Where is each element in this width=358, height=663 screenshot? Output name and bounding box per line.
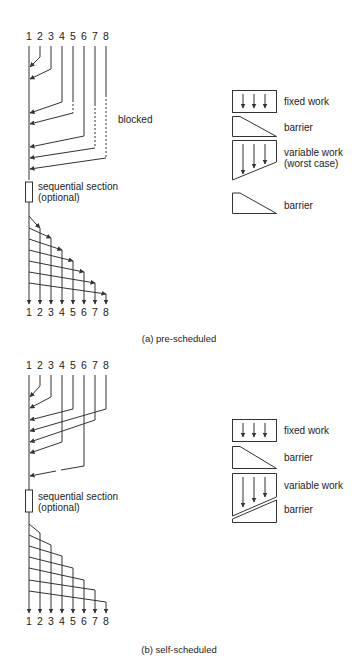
- blocked-label: blocked: [118, 114, 152, 125]
- legend-variable-work: variable work: [284, 147, 344, 158]
- proc-label: 2: [37, 615, 43, 627]
- barrier-shape: [233, 117, 277, 137]
- processor-labels-bottom: 1 2 3 4 5 6 7 8: [26, 306, 109, 318]
- proc-label: 7: [92, 615, 98, 627]
- fan-out-lines: [29, 216, 106, 304]
- proc-label: 4: [59, 615, 65, 627]
- barrier-shape: [233, 447, 277, 469]
- panel-pre-scheduled: 1 2 3 4 5 6 7 8 blocked: [26, 30, 344, 344]
- proc-label: 3: [48, 359, 54, 371]
- fan-out-lines: [29, 524, 106, 613]
- barrier-shape: [233, 500, 277, 523]
- proc-label: 3: [48, 30, 54, 42]
- proc-label: 2: [37, 306, 43, 318]
- legend-barrier: barrier: [284, 504, 314, 515]
- legend-self-scheduled: fixed work barrier variable work barrier: [233, 420, 344, 523]
- panel-self-scheduled: 1 2 3 4 5 6 7 8 sequential section (opti…: [26, 359, 344, 655]
- proc-label: 1: [26, 359, 32, 371]
- proc-label: 7: [92, 359, 98, 371]
- proc-label: 8: [103, 615, 109, 627]
- proc-label: 8: [103, 359, 109, 371]
- legend-worst-case: (worst case): [284, 158, 338, 169]
- proc-label: 1: [26, 30, 32, 42]
- scheduling-diagram: 1 2 3 4 5 6 7 8 blocked: [0, 0, 358, 663]
- proc-label: 3: [48, 306, 54, 318]
- legend-barrier: barrier: [284, 452, 314, 463]
- sequential-label: sequential section: [38, 491, 118, 502]
- proc-label: 6: [81, 359, 87, 371]
- optional-label: (optional): [38, 502, 80, 513]
- proc-label: 7: [92, 306, 98, 318]
- processor-labels-top: 1 2 3 4 5 6 7 8: [26, 30, 109, 42]
- proc-label: 5: [70, 615, 76, 627]
- legend-pre-scheduled: fixed work barrier variable work (worst …: [233, 91, 344, 214]
- legend-barrier: barrier: [284, 200, 314, 211]
- proc-label: 6: [81, 306, 87, 318]
- sequential-label: sequential section: [38, 181, 118, 192]
- proc-label: 6: [81, 615, 87, 627]
- join-lines: [29, 46, 106, 180]
- caption-pre-scheduled: (a) pre-scheduled: [142, 333, 216, 344]
- proc-label: 4: [59, 359, 65, 371]
- processor-labels-bottom: 1 2 3 4 5 6 7 8: [26, 615, 109, 627]
- sequential-section-box: [26, 490, 33, 512]
- legend-barrier: barrier: [284, 122, 314, 133]
- proc-label: 4: [59, 306, 65, 318]
- proc-label: 3: [48, 615, 54, 627]
- proc-label: 5: [70, 359, 76, 371]
- proc-label: 5: [70, 30, 76, 42]
- proc-label: 8: [103, 306, 109, 318]
- proc-label: 6: [81, 30, 87, 42]
- proc-label: 5: [70, 306, 76, 318]
- proc-label: 2: [37, 30, 43, 42]
- barrier-shape: [233, 193, 277, 214]
- proc-label: 1: [26, 306, 32, 318]
- proc-label: 2: [37, 359, 43, 371]
- join-lines: [29, 375, 106, 490]
- processor-labels-top: 1 2 3 4 5 6 7 8: [26, 359, 109, 371]
- legend-fixed-work: fixed work: [284, 96, 330, 107]
- sequential-section-box: [26, 182, 33, 202]
- proc-label: 8: [103, 30, 109, 42]
- proc-label: 1: [26, 615, 32, 627]
- legend-variable-work: variable work: [284, 480, 344, 491]
- caption-self-scheduled: (b) self-scheduled: [141, 644, 217, 655]
- proc-label: 4: [59, 30, 65, 42]
- legend-fixed-work: fixed work: [284, 425, 330, 436]
- proc-label: 7: [92, 30, 98, 42]
- optional-label: (optional): [38, 192, 80, 203]
